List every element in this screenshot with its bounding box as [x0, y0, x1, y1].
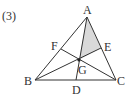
label-C: C	[117, 74, 125, 88]
problem-label: (3)	[2, 9, 16, 23]
label-A: A	[83, 3, 92, 17]
triangle-diagram: (3) A B C D E F G	[0, 0, 133, 101]
label-B: B	[24, 74, 32, 88]
label-F: F	[51, 39, 58, 53]
label-E: E	[104, 40, 111, 54]
centroid-point-G	[77, 58, 80, 61]
label-G: G	[78, 63, 87, 77]
label-D: D	[72, 83, 81, 97]
